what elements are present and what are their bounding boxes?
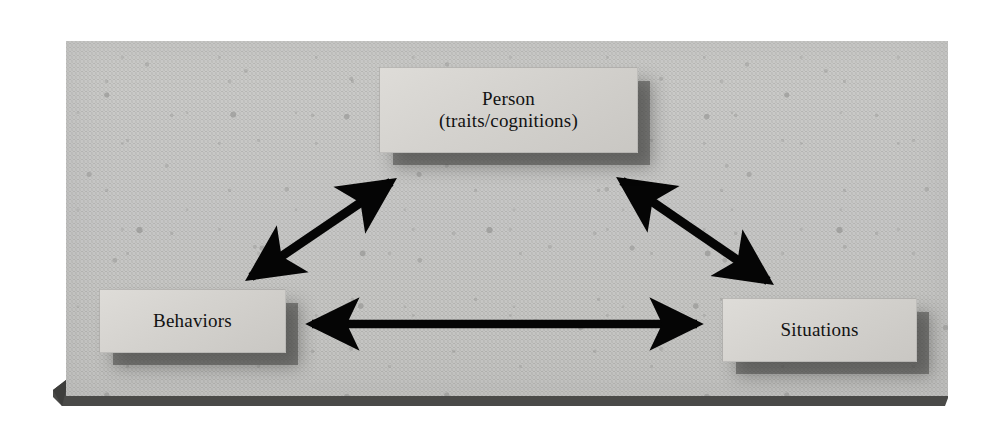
node-situations-text: Situations bbox=[772, 319, 866, 341]
node-behaviors-text: Behaviors bbox=[145, 310, 240, 332]
node-behaviors[interactable]: Behaviors bbox=[99, 289, 286, 353]
node-behaviors-line1: Behaviors bbox=[153, 310, 232, 331]
node-person-text: Person (traits/cognitions) bbox=[431, 88, 586, 133]
node-person-line1: Person bbox=[482, 88, 535, 109]
node-person[interactable]: Person (traits/cognitions) bbox=[379, 67, 638, 153]
diagram-figure: Person (traits/cognitions) Behaviors Sit… bbox=[0, 0, 995, 435]
node-person-line2: (traits/cognitions) bbox=[439, 110, 578, 132]
node-situations-line1: Situations bbox=[780, 319, 858, 340]
node-situations[interactable]: Situations bbox=[722, 298, 917, 362]
